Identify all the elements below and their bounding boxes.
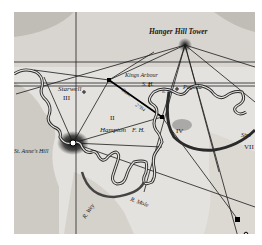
- region-label-VII: VII: [244, 144, 254, 151]
- label-st-annes-hill: St. Anne's Hill: [14, 148, 48, 154]
- label-r-th: R. Th.: [162, 90, 173, 95]
- label-fh: F. H.: [132, 127, 145, 134]
- historical-triangulation-map: Hanger Hill Tower Kings Arbour S. H. Pag…: [14, 12, 255, 234]
- label-kings-arbour: Kings Arbour: [125, 72, 158, 78]
- region-label-I: I: [148, 82, 150, 89]
- region-label-III: III: [63, 95, 70, 102]
- label-hanger-hill-tower: Hanger Hill Tower: [149, 28, 207, 36]
- base-line: [109, 80, 162, 117]
- region-label-IV: IV: [176, 128, 183, 135]
- label-pagoda: Pagoda: [183, 84, 202, 90]
- label-starwell: Starwell: [58, 86, 81, 93]
- label-hampton: Hampton: [100, 127, 126, 134]
- label-streatham: Stre: [241, 132, 251, 139]
- region-label-II: II: [110, 115, 115, 122]
